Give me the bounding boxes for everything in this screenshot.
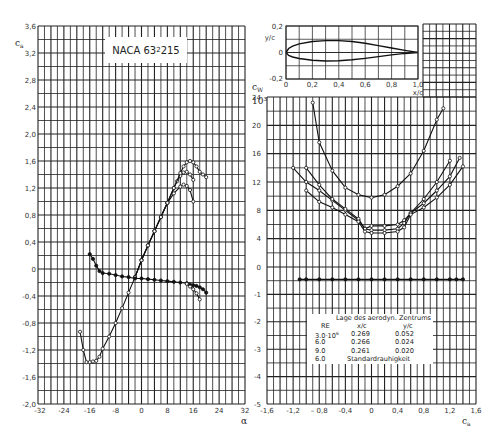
data-point <box>422 278 425 281</box>
data-point <box>383 224 386 227</box>
data-point <box>370 224 373 227</box>
inset-x-tick: 1,0 <box>412 81 423 89</box>
left-y-tick: 1,2 <box>25 185 36 193</box>
legend-re: 6.0 <box>315 355 326 363</box>
data-point <box>370 278 373 281</box>
data-point <box>82 348 85 351</box>
data-point <box>198 298 201 301</box>
chart-title: NACA 632 215 <box>105 37 187 63</box>
data-point <box>192 200 195 203</box>
left-y-tick: 3,6 <box>25 23 37 31</box>
left-y-tick: 0 <box>32 266 36 274</box>
data-point <box>383 231 386 234</box>
left-y-tick: 1,6 <box>25 158 37 166</box>
legend-xc: 0.266 <box>351 338 370 346</box>
top-right-grid <box>423 24 476 97</box>
data-point <box>195 284 198 287</box>
left-y-tick: 2,4 <box>25 104 37 112</box>
data-point <box>458 156 461 159</box>
data-point <box>172 192 175 195</box>
data-point <box>188 173 191 176</box>
data-point <box>159 215 162 218</box>
legend-xc: 0.269 <box>351 330 370 338</box>
data-point <box>192 288 195 291</box>
data-point <box>182 183 185 186</box>
left-plot-grid <box>38 26 245 404</box>
left-x-tick: -32 <box>34 407 45 415</box>
right-cm-tick: -4 <box>254 373 262 381</box>
right-cw-tick: 8 <box>257 207 261 215</box>
data-point <box>344 278 347 281</box>
right-x-tick: 1,6 <box>470 407 482 415</box>
data-point <box>370 231 373 234</box>
inset-x-tick: 0,2 <box>307 81 318 89</box>
data-point <box>185 170 188 173</box>
data-point <box>331 206 334 209</box>
right-x-tick: 0,4 <box>392 407 404 415</box>
data-point <box>318 141 321 144</box>
data-point <box>409 172 412 175</box>
data-point <box>188 285 191 288</box>
data-point <box>357 193 360 196</box>
legend-yc: 0.024 <box>395 338 414 346</box>
data-point <box>435 196 438 199</box>
data-point <box>140 277 143 280</box>
data-point <box>383 193 386 196</box>
cw-axis-label: cW <box>252 82 264 93</box>
data-point <box>188 159 191 162</box>
data-point <box>435 180 438 183</box>
data-point <box>192 161 195 164</box>
data-point <box>198 286 201 289</box>
right-cm-tick: -3 <box>254 346 261 354</box>
data-point <box>182 165 185 168</box>
data-point <box>370 196 373 199</box>
left-y-tick: 3,2 <box>25 50 36 58</box>
data-point <box>179 281 182 284</box>
data-point <box>396 185 399 188</box>
data-point <box>311 101 314 104</box>
right-cw-tick: 0 <box>257 264 261 272</box>
legend-re: 6.0 <box>315 338 326 346</box>
data-point <box>461 278 464 281</box>
data-point <box>185 282 188 285</box>
legend-xc: Standardrauhigkeit <box>347 355 410 363</box>
data-point <box>127 291 130 294</box>
left-y-tick: -0,8 <box>22 320 36 328</box>
data-point <box>305 180 308 183</box>
right-x-tick: 0 <box>369 407 373 415</box>
airfoil-polar-figure: 3,63,22,82,42,01,61,20,80,40-0,4-0,8-1,2… <box>0 0 497 441</box>
data-point <box>331 278 334 281</box>
left-x-tick: -8 <box>112 407 119 415</box>
left-y-axis-label: ca <box>15 38 24 49</box>
data-point <box>442 107 445 110</box>
data-point <box>101 347 104 350</box>
data-point <box>318 278 321 281</box>
title-main: NACA 63 <box>112 45 156 56</box>
data-point <box>435 118 438 121</box>
left-x-tick: -16 <box>84 407 96 415</box>
legend-re: 9.0 <box>315 347 326 355</box>
data-point <box>172 186 175 189</box>
right-cm-tick: -2 <box>254 318 261 326</box>
data-point <box>396 223 399 226</box>
data-point <box>185 184 188 187</box>
data-point <box>318 200 321 203</box>
right-x-tick: -1,2 <box>286 407 300 415</box>
left-y-tick: 0,8 <box>25 212 36 220</box>
data-point <box>101 271 104 274</box>
left-y-tick: -1,2 <box>22 347 36 355</box>
title-tail: 215 <box>161 45 180 56</box>
data-point <box>318 189 321 192</box>
data-point <box>95 359 98 362</box>
data-point <box>331 169 334 172</box>
data-point <box>396 278 399 281</box>
data-point <box>153 230 156 233</box>
data-point <box>91 257 94 260</box>
data-point <box>205 176 208 179</box>
data-point <box>195 292 198 295</box>
inset-x-tick: 0,6 <box>360 81 372 89</box>
data-point <box>357 220 360 223</box>
data-point <box>318 183 321 186</box>
inset-y-tick: 0 <box>279 49 283 57</box>
data-point <box>292 166 295 169</box>
